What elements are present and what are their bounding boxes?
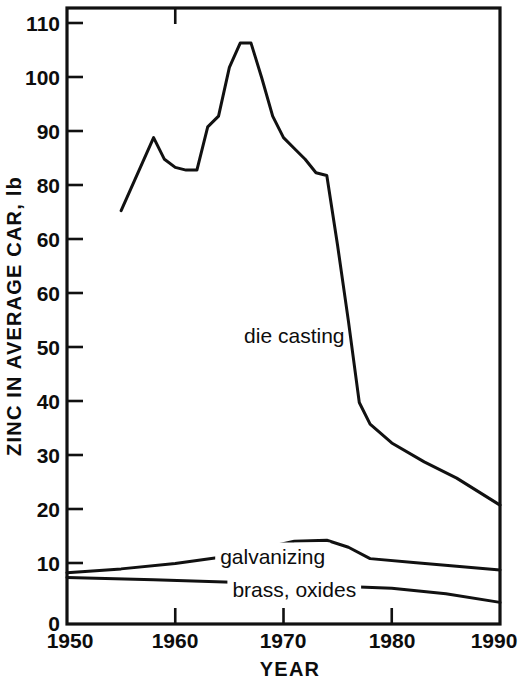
y-tick-label-20: 20 [37, 498, 60, 521]
y-tick-label-80: 80 [37, 174, 60, 197]
series-line-die-casting [121, 43, 500, 505]
annotation-galvanizing: galvanizing [215, 543, 330, 570]
series-label-die-casting: die casting [244, 324, 344, 347]
series-lines [67, 43, 500, 602]
x-axis-title: YEAR [260, 658, 320, 680]
series-annotations: die casting galvanizing brass, oxides [215, 324, 361, 603]
figure-container: 110 100 90 80 60 60 50 40 30 20 10 0 195… [0, 0, 520, 681]
x-tick-label-1980: 1980 [369, 629, 416, 652]
series-label-brass-oxides: brass, oxides [232, 578, 356, 601]
plot-frame [67, 8, 500, 624]
x-tick-label-1950: 1950 [47, 629, 94, 652]
x-tick-label-1970: 1970 [260, 629, 307, 652]
x-tick-label-1990: 1990 [471, 629, 518, 652]
x-axis-tick-labels: 1950 1960 1970 1980 1990 [47, 629, 518, 652]
y-axis-tick-labels: 110 100 90 80 60 60 50 40 30 20 10 0 [25, 12, 60, 635]
y-tick-label-10: 10 [37, 552, 60, 575]
y-tick-label-70: 60 [37, 228, 60, 251]
y-axis-title: ZINC IN AVERAGE CAR, lb [3, 176, 25, 456]
x-axis-ticks-bottom [175, 608, 392, 624]
y-axis-ticks [67, 23, 83, 563]
x-tick-label-1960: 1960 [152, 629, 199, 652]
annotation-die-casting: die casting [244, 324, 344, 347]
series-label-galvanizing: galvanizing [220, 545, 325, 568]
y-tick-label-30: 30 [37, 444, 60, 467]
y-tick-label-110: 110 [26, 12, 60, 35]
y-tick-label-50: 50 [37, 336, 60, 359]
zinc-in-average-car-line-chart: 110 100 90 80 60 60 50 40 30 20 10 0 195… [0, 0, 520, 681]
y-tick-label-90: 90 [37, 120, 60, 143]
y-tick-label-60: 60 [37, 282, 60, 305]
annotation-brass-oxides: brass, oxides [227, 576, 361, 603]
y-tick-label-40: 40 [37, 390, 60, 413]
y-tick-label-100: 100 [25, 66, 60, 89]
